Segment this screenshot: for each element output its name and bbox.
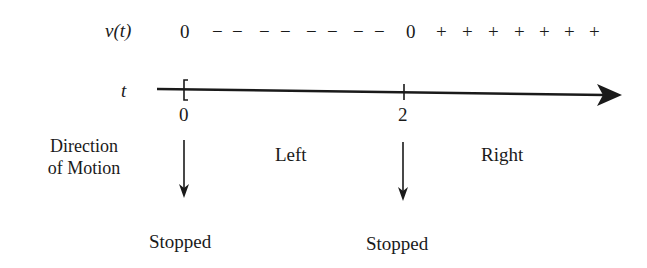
positive-sign: +	[488, 22, 499, 41]
positive-sign: +	[462, 22, 473, 41]
interval-label-right: Right	[481, 145, 523, 164]
negative-sign: −	[212, 22, 223, 41]
axis-label-t: t	[121, 81, 126, 100]
tick-label-2: 2	[398, 105, 408, 124]
negative-sign: −	[306, 22, 317, 41]
positive-sign: +	[589, 22, 600, 41]
t-axis-line	[157, 89, 605, 95]
sign-row-zero-right: 0	[406, 22, 416, 41]
direction-heading-line1: Direction	[34, 135, 134, 157]
positive-sign: +	[539, 22, 550, 41]
sign-row-zero-left: 0	[180, 22, 190, 41]
positive-sign: +	[564, 22, 575, 41]
negative-sign: −	[327, 22, 338, 41]
stopped-label-0: Stopped	[149, 232, 211, 251]
diagram-graphics	[0, 0, 647, 268]
interval-label-left: Left	[275, 145, 307, 164]
negative-sign: −	[374, 22, 385, 41]
negative-sign: −	[232, 22, 243, 41]
direction-heading: Direction of Motion	[34, 135, 134, 179]
direction-heading-line2: of Motion	[34, 157, 134, 179]
positive-sign: +	[514, 22, 525, 41]
negative-sign: −	[353, 22, 364, 41]
positive-sign: +	[436, 22, 447, 41]
negative-sign: −	[259, 22, 270, 41]
negative-sign: −	[280, 22, 291, 41]
stopped-label-2: Stopped	[366, 234, 428, 253]
sign-row-label: v(t)	[105, 21, 131, 40]
tick-label-0: 0	[179, 105, 189, 124]
